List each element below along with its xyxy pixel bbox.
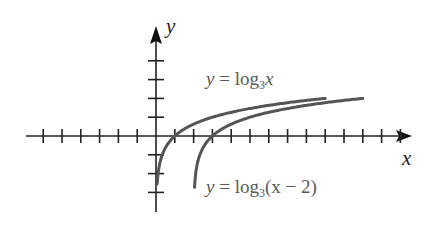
curve2-label: y = log3(x − 2) xyxy=(206,176,317,201)
curve1-label: y = log3x xyxy=(206,68,273,93)
y-axis-label: y xyxy=(166,14,175,39)
x-axis-label: x xyxy=(402,146,411,171)
curve-1 xyxy=(157,98,325,184)
curve-2 xyxy=(195,98,363,187)
